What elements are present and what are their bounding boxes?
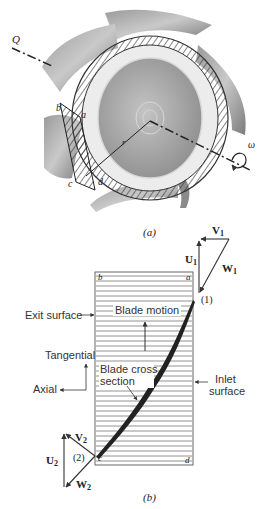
inlet-surface-label-1: Inlet (215, 373, 236, 385)
W1-label: W1 (222, 262, 237, 276)
blade-cross-section-label-2: section (100, 375, 135, 387)
blade-passage-diagram: Blade motion Blade cross section b a c d… (25, 224, 245, 492)
V2-label: V2 (75, 431, 87, 445)
label-r: r (122, 137, 126, 147)
blade-cross-section-leader (127, 386, 137, 400)
blade-top (105, 10, 212, 40)
corner-c: c (98, 453, 102, 463)
U2-label: U2 (46, 454, 58, 468)
point-1-label: (1) (201, 294, 213, 306)
label-c: c (68, 178, 73, 189)
corner-d: d (185, 455, 190, 465)
label-omega: ω (248, 139, 255, 150)
caption-a: (a) (143, 226, 156, 239)
impeller-illustration: Q ω r a b c d (12, 10, 255, 212)
blade-cross-section-label-1: Blade cross (100, 363, 158, 375)
tangential-label: Tangential (45, 349, 95, 361)
pump-impeller-figure: Q ω r a b c d (a) (0, 0, 257, 509)
label-Q: Q (12, 33, 20, 45)
V1-label: V1 (212, 224, 224, 238)
label-a: a (81, 109, 86, 120)
blade-motion-label: Blade motion (115, 304, 179, 316)
caption-b: (b) (143, 491, 156, 504)
exit-surface-label: Exit surface (25, 309, 82, 321)
rotation-arrow-icon (232, 153, 246, 167)
corner-a: a (186, 272, 191, 282)
U1-label: U1 (185, 253, 197, 267)
W2-label: W2 (76, 478, 91, 492)
axial-label: Axial (33, 383, 57, 395)
point-2-label: (2) (73, 452, 85, 464)
axis-line-in (12, 48, 52, 66)
corner-b: b (98, 272, 103, 282)
inlet-surface-label-2: surface (209, 385, 245, 397)
label-b: b (56, 102, 61, 113)
hub-disk (98, 58, 202, 178)
